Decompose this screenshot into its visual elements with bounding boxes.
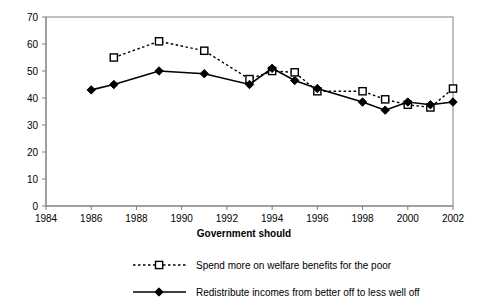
x-tick-label: 1984 [35, 213, 58, 224]
data-point-marker [291, 69, 298, 76]
y-tick-label: 50 [27, 66, 39, 77]
data-point-marker [201, 47, 208, 54]
line-chart: 010203040506070 198419861988199019921994… [0, 0, 488, 303]
x-tick-label: 1996 [306, 213, 329, 224]
y-tick-label: 40 [27, 93, 39, 104]
data-point-marker [155, 38, 162, 45]
y-tick-label: 60 [27, 39, 39, 50]
data-point-marker [449, 85, 456, 92]
y-tick-label: 30 [27, 120, 39, 131]
chart-canvas: 010203040506070 198419861988199019921994… [0, 0, 488, 303]
x-tick-label: 1992 [216, 213, 239, 224]
data-point-marker [382, 96, 389, 103]
x-tick-label: 2000 [397, 213, 420, 224]
x-tick-label: 1988 [125, 213, 148, 224]
y-tick-label: 20 [27, 147, 39, 158]
x-tick-label: 1986 [80, 213, 103, 224]
x-tick-label: 1990 [171, 213, 194, 224]
legend-marker-square [156, 261, 163, 268]
legend-label: Spend more on welfare benefits for the p… [196, 260, 392, 271]
y-tick-label: 0 [32, 201, 38, 212]
x-tick-label: 1994 [261, 213, 284, 224]
data-point-marker [359, 88, 366, 95]
x-tick-label: 1998 [351, 213, 374, 224]
x-axis-title: Government should [197, 228, 291, 239]
x-tick-label: 2002 [442, 213, 465, 224]
chart-background [0, 0, 488, 303]
y-tick-label: 70 [27, 12, 39, 23]
y-tick-label: 10 [27, 174, 39, 185]
data-point-marker [110, 54, 117, 61]
legend-label: Redistribute incomes from better off to … [196, 287, 420, 298]
